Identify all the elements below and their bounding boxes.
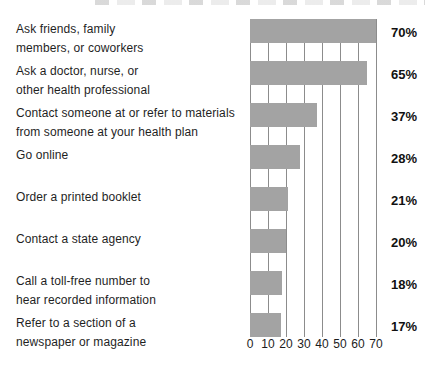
bar-label-line: Ask a doctor, nurse, or [16, 62, 244, 81]
bar [250, 145, 300, 169]
bar-label-line: Go online [16, 146, 244, 165]
value-label: 28% [391, 152, 425, 166]
bar-chart: Ask friends, familymembers, or coworkers… [0, 0, 425, 369]
bar [250, 103, 317, 127]
bar-label-line: Order a printed booklet [16, 188, 244, 207]
cropped-text-remnant [95, 0, 425, 5]
value-label: 65% [391, 68, 425, 82]
bar-label-line: from someone at your health plan [16, 123, 244, 142]
bar-label-line: Refer to a section of a [16, 314, 244, 333]
x-tick-label: 70 [364, 338, 388, 351]
bar-label-line: Contact a state agency [16, 230, 244, 249]
bar-label: Ask friends, familymembers, or coworkers [16, 20, 244, 57]
value-label: 21% [391, 194, 425, 208]
bar [250, 229, 286, 253]
value-label: 37% [391, 110, 425, 124]
bar [250, 313, 281, 337]
bar-label: Go online [16, 146, 244, 165]
bar [250, 61, 367, 85]
bar [250, 187, 288, 211]
bar [250, 19, 376, 43]
value-label: 70% [391, 26, 425, 40]
plot-area [250, 19, 377, 337]
bar-label: Contact a state agency [16, 230, 244, 249]
value-label: 18% [391, 278, 425, 292]
bar-label-line: Ask friends, family [16, 20, 244, 39]
bar-label: Ask a doctor, nurse, orother health prof… [16, 62, 244, 99]
value-label: 17% [391, 320, 425, 334]
bar-label: Order a printed booklet [16, 188, 244, 207]
bar-label-line: members, or coworkers [16, 39, 244, 58]
bar-label: Call a toll-free number tohear recorded … [16, 272, 244, 309]
bar [250, 271, 282, 295]
bar-label: Refer to a section of anewspaper or maga… [16, 314, 244, 351]
bar-label-line: Call a toll-free number to [16, 272, 244, 291]
bar-label-line: newspaper or magazine [16, 333, 244, 352]
value-label: 20% [391, 236, 425, 250]
bar-label-line: Contact someone at or refer to materials [16, 104, 244, 123]
bar-label-line: hear recorded information [16, 291, 244, 310]
gridline [376, 19, 377, 337]
bar-label: Contact someone at or refer to materials… [16, 104, 244, 141]
bar-label-line: other health professional [16, 81, 244, 100]
